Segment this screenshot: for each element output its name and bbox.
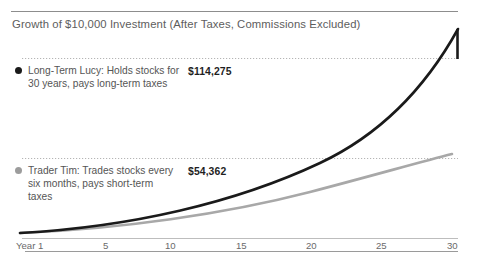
x-tick-label-5: 5	[103, 240, 108, 251]
x-tick-label-25: 25	[376, 240, 387, 251]
legend-label-long-term-lucy: Long-Term Lucy: Holds stocks for 30 year…	[28, 64, 180, 90]
plot-svg	[0, 0, 481, 266]
x-axis-line	[22, 238, 458, 239]
footer-divider	[25, 251, 458, 252]
x-tick-label-20: 20	[306, 240, 317, 251]
x-tick-label-year-1: Year 1	[16, 240, 43, 251]
legend-bullet-icon-trader-tim	[15, 167, 22, 174]
x-tick-label-10: 10	[165, 240, 176, 251]
x-tick-label-30: 30	[447, 240, 458, 251]
legend-value-long-term-lucy: $114,275	[188, 66, 232, 77]
legend-label-trader-tim: Trader Tim: Trades stocks every six mont…	[28, 164, 180, 203]
investment-growth-chart: Growth of $10,000 Investment (After Taxe…	[0, 0, 481, 266]
legend-item-trader-tim: Trader Tim: Trades stocks every six mont…	[15, 164, 180, 203]
legend-item-long-term-lucy: Long-Term Lucy: Holds stocks for 30 year…	[15, 64, 180, 90]
x-tick-label-15: 15	[236, 240, 247, 251]
plot-area	[0, 0, 481, 266]
legend-value-trader-tim: $54,362	[188, 166, 226, 177]
legend-bullet-icon-long-term-lucy	[15, 67, 22, 74]
